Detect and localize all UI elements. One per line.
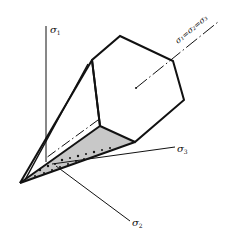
sigma1-label: σ1 (50, 24, 61, 36)
sigma2-label: σ2 (132, 217, 143, 229)
cone-edges (20, 60, 135, 183)
hexagon-yield-section (92, 36, 184, 142)
tresca-yield-surface-diagram: σ1 σ3 σ2 σ₁=σ₂=σ₃ (0, 0, 235, 244)
sigma2-axis (56, 166, 130, 221)
hydrostatic-axis-label: σ₁=σ₂=σ₃ (174, 13, 210, 45)
hexagon-center-dot (135, 87, 137, 89)
sigma3-label: σ3 (177, 143, 188, 155)
